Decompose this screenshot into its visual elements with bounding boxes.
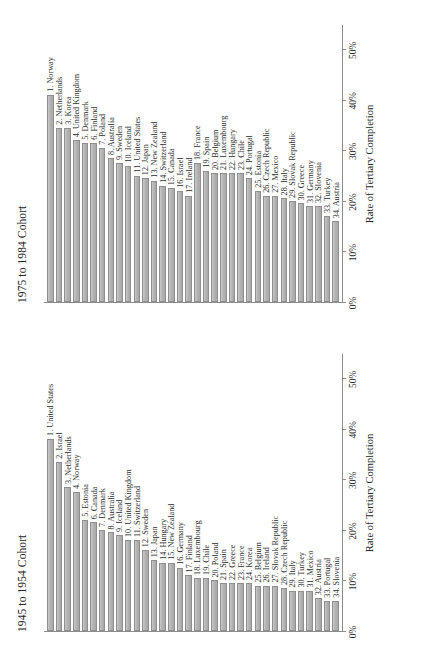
bar — [99, 530, 106, 631]
bar — [289, 201, 296, 302]
bar-label: 16. Germany — [176, 522, 185, 568]
bar-label: 2. Israel — [54, 432, 63, 461]
bar — [237, 583, 244, 631]
bar-label: 1. United States — [46, 384, 55, 439]
bar-row: 8. Australia — [108, 353, 115, 631]
bar-label: 26. Czech Republic — [262, 129, 271, 196]
chart-title-1945-1954: 1945 to 1954 Cohort — [16, 535, 28, 632]
figure-root: 1945 to 1954 Cohort 1. United States2. I… — [0, 0, 428, 658]
bar-label: 9. Iceland — [115, 500, 124, 535]
bar — [64, 487, 71, 631]
bar — [151, 560, 158, 631]
bar-row: 25. Estonia — [255, 24, 262, 302]
bar-row: 5. Denmark — [82, 24, 89, 302]
bar-label: 19. Chile — [201, 545, 210, 578]
bar — [324, 601, 331, 631]
axis-baseline — [342, 25, 343, 303]
bar-row: 30. Greece — [298, 24, 305, 302]
bar-row: 9. Sweden — [116, 24, 123, 302]
bar-row: 6. Canada — [90, 353, 97, 631]
bar-label: 27. Slovak Republic — [271, 516, 280, 586]
bar — [159, 186, 166, 302]
bar-label: 11. Switzerland — [132, 486, 141, 540]
bar — [246, 583, 253, 631]
bar-row: 2. Netherlands — [56, 24, 63, 302]
bar-row: 13. Japan — [151, 353, 158, 631]
bar-label: 22. Greece — [227, 545, 236, 583]
axis-tick — [342, 429, 346, 430]
bar-row: 19. Spain — [203, 24, 210, 302]
bar-label: 7. Poland — [98, 114, 107, 148]
axis-tick-label: 10% — [348, 573, 358, 590]
bar — [246, 178, 253, 302]
bar — [125, 540, 132, 631]
bar — [324, 216, 331, 302]
bar-row: 32. Austria — [315, 353, 322, 631]
axis-tick-label: 40% — [348, 421, 358, 438]
bar-row: 34. Austria — [332, 24, 339, 302]
bar-label: 25. Belgium — [253, 542, 262, 585]
bar-row: 31. Mexico — [306, 353, 313, 631]
axis-tick-label: 0% — [348, 297, 358, 310]
bar — [272, 196, 279, 302]
axis-baseline — [342, 354, 343, 632]
bar — [281, 198, 288, 302]
bar — [194, 578, 201, 631]
bar-group-1945-1954: 1. United States2. Israel3. Netherlands4… — [46, 354, 340, 631]
bar-label: 5. Estonia — [80, 484, 89, 520]
bar — [134, 176, 141, 302]
axis-tick — [342, 580, 346, 581]
bar — [332, 601, 339, 631]
bar-label: 23. France — [236, 545, 245, 583]
bar-row: 33. Portugal — [324, 353, 331, 631]
bar-row: 28. Italy — [281, 24, 288, 302]
bar-row: 30. Turkey — [298, 353, 305, 631]
bar-label: 32. Austria — [314, 559, 323, 598]
bar-row: 14. Hungary — [159, 353, 166, 631]
bar-label: 13. New Zealand — [150, 122, 159, 181]
bar-label: 7. Denmark — [98, 488, 107, 530]
bar-row: 24. Korea — [246, 353, 253, 631]
bar-row: 27. Mexico — [272, 24, 279, 302]
bar — [255, 191, 262, 302]
bar — [108, 158, 115, 302]
axis-tick-label: 10% — [348, 244, 358, 261]
bar-label: 30. Turkey — [297, 552, 306, 591]
bar — [298, 591, 305, 631]
bar-label: 1. Norway — [46, 57, 55, 95]
bar-row: 13. New Zealand — [151, 24, 158, 302]
axis-tick — [342, 631, 346, 632]
bar — [255, 586, 262, 631]
bar-row: 12. Japan — [142, 24, 149, 302]
bar-row: 21. Luxembourg — [220, 24, 227, 302]
axis-tick-label: 30% — [348, 143, 358, 160]
bar — [73, 140, 80, 302]
bar-label: 10. United Kingdom — [124, 469, 133, 540]
bar-label: 20. Belgium — [210, 130, 219, 173]
bar-row: 20. Poland — [211, 353, 218, 631]
axis-tick — [342, 100, 346, 101]
bar — [211, 173, 218, 302]
bar-row: 9. Iceland — [116, 353, 123, 631]
bar-row: 29. Italy — [289, 353, 296, 631]
bar-label: 21. Spain — [219, 549, 228, 583]
bar-row: 11. Switzerland — [134, 353, 141, 631]
bar-row: 19. Chile — [203, 353, 210, 631]
bar — [134, 540, 141, 631]
bar-label: 9. Sweden — [115, 126, 124, 163]
bar-label: 15. Canada — [167, 148, 176, 188]
bar — [125, 166, 132, 302]
axis-tick — [342, 150, 346, 151]
plot-area-1975-1984: 1. Norway2. Netherlands3. Korea4. United… — [44, 25, 342, 303]
bar-row: 18. Luxembourg — [194, 353, 201, 631]
bar — [168, 188, 175, 302]
bar-label: 16. Israel — [176, 157, 185, 190]
bar-label: 29. Slovak Republic — [288, 131, 297, 201]
bar-row: 26. Ireland — [263, 353, 270, 631]
bar-label: 21. Luxembourg — [219, 116, 228, 173]
bar-row: 3. Netherlands — [64, 353, 71, 631]
bar-label: 5. Denmark — [80, 101, 89, 143]
axis-title-1945-1954: Rate of Tertiary Completion — [364, 354, 375, 632]
bar-label: 6. Finland — [89, 107, 98, 143]
bar — [306, 591, 313, 631]
